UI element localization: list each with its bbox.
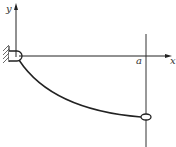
rod-position-label: a: [136, 55, 142, 66]
vertical-rod: a: [136, 34, 146, 147]
y-axis: y: [5, 3, 18, 57]
x-axis-label: x: [170, 55, 176, 66]
y-axis-label: y: [5, 3, 12, 14]
sliding-ring: [141, 114, 151, 120]
mechanics-diagram: y x a: [0, 0, 176, 147]
hanging-curve: [19, 60, 141, 117]
x-axis: x: [19, 54, 176, 66]
